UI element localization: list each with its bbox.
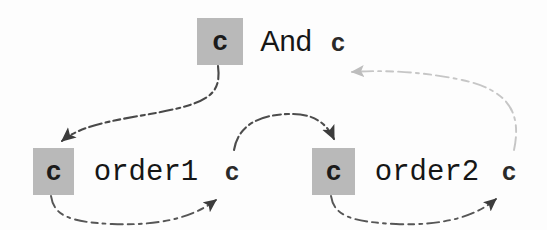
token-order2: order2 [366, 153, 488, 191]
arrow-order1-to-order2 [234, 114, 334, 150]
token-order1: order1 [85, 153, 207, 191]
cursor-box-top[interactable]: c [197, 18, 243, 65]
cursor-mark-top-right[interactable]: c [328, 26, 348, 58]
arrow-top-to-order1 [62, 66, 219, 141]
cursor-box-order2-label: c [326, 158, 341, 185]
token-order1-label: order1 [94, 158, 198, 187]
cursor-box-order1[interactable]: c [33, 148, 74, 195]
keyword-and-label: And [260, 27, 312, 56]
cursor-box-top-label: c [212, 28, 227, 55]
cursor-mark-order1-end-label: c [225, 159, 239, 184]
keyword-and: And [255, 22, 317, 60]
cursor-mark-order1-end[interactable]: c [222, 155, 242, 187]
cursor-mark-order2-end-label: c [502, 159, 516, 184]
cursor-mark-top-right-label: c [331, 30, 345, 55]
arrow-order2-under [331, 196, 496, 224]
cursor-mark-order2-end[interactable]: c [499, 155, 519, 187]
token-order2-label: order2 [375, 158, 479, 187]
arrow-order2-to-top [352, 71, 516, 150]
cursor-box-order2[interactable]: c [312, 148, 355, 195]
cursor-box-order1-label: c [46, 158, 61, 185]
arrow-order1-under [51, 196, 216, 224]
diagram-canvas: c And c c order1 c c order2 c [0, 0, 547, 230]
